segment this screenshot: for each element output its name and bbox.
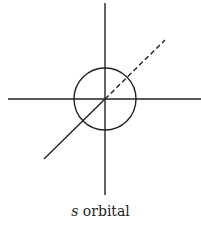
diagram-caption: s orbital — [0, 203, 201, 219]
caption-text: orbital — [78, 203, 129, 219]
s-orbital-diagram — [0, 0, 201, 234]
